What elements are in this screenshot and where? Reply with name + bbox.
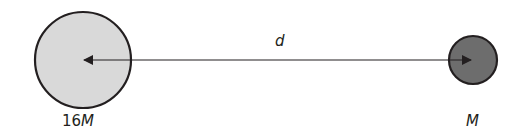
large-mass-variable: M [81, 112, 94, 130]
small-mass-label: M [466, 114, 479, 129]
large-mass-label: 16M [62, 114, 94, 129]
distance-label: d [275, 34, 285, 49]
large-mass-coefficient: 16 [62, 112, 81, 130]
